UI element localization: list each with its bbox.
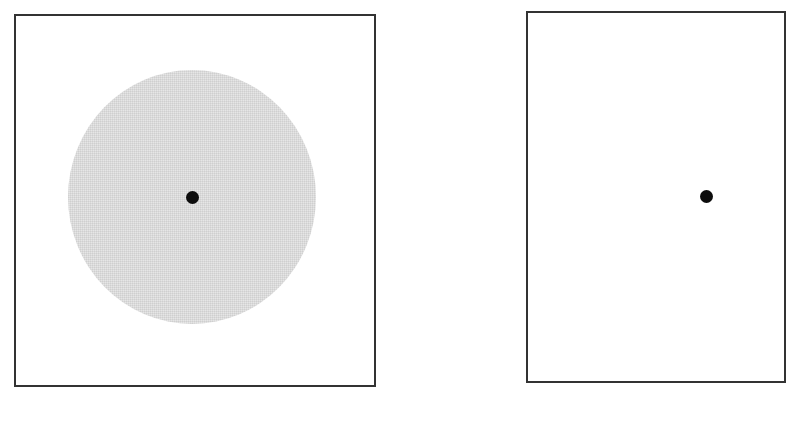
- left-panel: [14, 14, 376, 387]
- right-panel: [526, 11, 786, 383]
- center-dot: [186, 191, 199, 204]
- center-dot: [700, 190, 713, 203]
